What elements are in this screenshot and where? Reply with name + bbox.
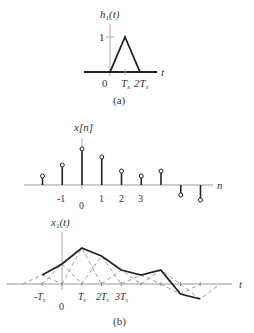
- xn-tick-3: 3: [138, 193, 143, 204]
- x1-tick-2ts: 2Ts: [96, 291, 110, 303]
- dashed-triangle: [102, 270, 142, 284]
- stem-marker: [159, 169, 163, 173]
- xn-xlabel: n: [217, 179, 223, 191]
- xn-tick-0: 0: [79, 200, 84, 211]
- h1-ytick-label: 1: [99, 31, 105, 43]
- h1-xtick-ts-label: Ts: [121, 77, 130, 91]
- xn-ylabel: x[n]: [73, 121, 93, 133]
- stem-marker: [120, 169, 124, 173]
- caption-a: (a): [113, 94, 126, 107]
- dashed-triangle: [82, 256, 122, 284]
- xn-tick-minus1: -1: [57, 193, 65, 204]
- panel-b-x1: x1(t) t -Ts 0 Ts 2Ts 3Ts (b): [6, 216, 243, 328]
- stem-marker: [100, 155, 104, 159]
- dashed-triangle: [181, 284, 221, 299]
- stem-marker: [199, 198, 203, 202]
- stem-marker: [179, 193, 183, 197]
- panel-xn: x[n] n -1 0 1 2 3: [24, 121, 223, 211]
- h1-triangle-pulse: [84, 37, 157, 72]
- diagram-canvas: h1(t) 1 t 0 Ts 2Ts (a) x[n] n -1 0 1 2 3…: [0, 0, 254, 333]
- caption-b: (b): [113, 315, 126, 328]
- xn-tick-1: 1: [99, 193, 104, 204]
- stem-marker: [80, 147, 84, 151]
- x1-tick-0: 0: [59, 301, 64, 312]
- dashed-triangle: [141, 270, 181, 284]
- x1-tick-ts: Ts: [78, 291, 87, 303]
- h1-ylabel: h1(t): [100, 8, 120, 22]
- stem-marker: [139, 174, 143, 178]
- panel-a-h1: h1(t) 1 t 0 Ts 2Ts (a): [84, 8, 165, 107]
- x1-ylabel: x1(t): [50, 216, 70, 230]
- x1-tick-minus-ts: -Ts: [34, 291, 46, 303]
- x1-xlabel: t: [239, 278, 243, 290]
- stem-marker: [60, 163, 64, 167]
- x1-tick-3ts: 3Ts: [114, 291, 129, 303]
- h1-xtick-2ts-label: 2Ts: [134, 77, 149, 91]
- stem-marker: [41, 174, 45, 178]
- xn-tick-2: 2: [119, 193, 124, 204]
- h1-xlabel: t: [161, 66, 165, 78]
- h1-xtick-0: 0: [102, 77, 108, 89]
